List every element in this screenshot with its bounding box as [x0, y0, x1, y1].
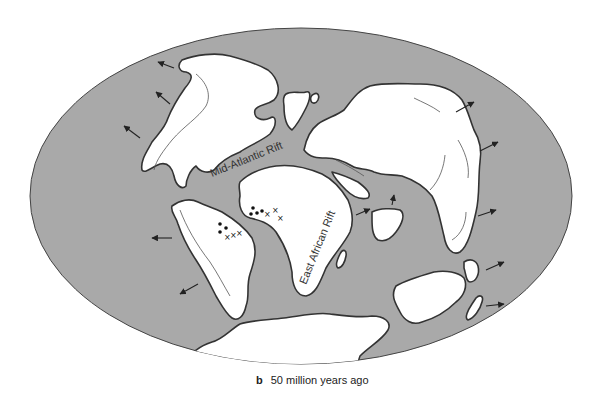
paleogeographic-map: ××× ××× Mid-Atlantic Rift East African R…	[0, 0, 602, 398]
svg-text:×: ×	[264, 210, 271, 219]
landmass-southeast-asia	[464, 260, 479, 282]
landmass-small-island	[311, 93, 319, 103]
svg-text:×: ×	[277, 214, 284, 223]
figure-caption: b50 million years ago	[256, 374, 369, 386]
caption-panel-letter: b	[256, 374, 263, 386]
caption-text: 50 million years ago	[271, 374, 369, 386]
svg-text:×: ×	[236, 229, 243, 238]
